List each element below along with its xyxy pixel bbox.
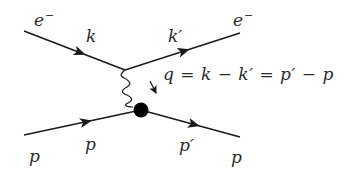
label-electron-in: e− <box>34 10 54 29</box>
momentum-arrow-icon <box>150 81 156 93</box>
label-k: k <box>86 28 96 45</box>
outgoing-proton-line <box>141 110 240 137</box>
momentum-equation: q = k − k′ = p′ − p <box>163 66 334 83</box>
feynman-diagram: e− k k′ e− q = k − k′ = p′ − p p p p′ p <box>0 0 357 173</box>
incoming-electron-line <box>24 31 125 70</box>
label-k-prime: k′ <box>168 28 182 45</box>
label-proton-out: p <box>231 149 242 166</box>
label-p: p <box>85 136 96 153</box>
label-electron-out: e− <box>233 10 253 29</box>
label-p-prime: p′ <box>179 137 194 154</box>
photon-propagator <box>121 70 133 107</box>
vertex-blob <box>134 103 149 118</box>
incoming-proton-line <box>24 110 141 135</box>
label-proton-in: p <box>29 148 40 165</box>
